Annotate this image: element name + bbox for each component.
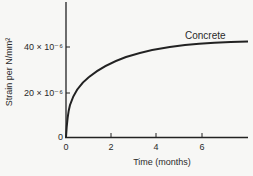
x-axis-title: Time (months) (133, 157, 191, 167)
y-tick-label-0: 0 (58, 132, 63, 142)
concrete-curve (66, 42, 248, 138)
x-tick-label-6: 6 (199, 142, 204, 152)
series-label: Concrete (185, 30, 226, 41)
x-tick-label-4: 4 (153, 142, 158, 152)
x-tick-label-0: 0 (63, 142, 68, 152)
y-tick-label-20: 20 × 10⁻⁶ (24, 88, 63, 98)
x-tick-label-2: 2 (108, 142, 113, 152)
creep-chart: Concrete 40 × 10⁻⁶ 20 × 10⁻⁶ 0 0 2 4 6 T… (0, 0, 253, 176)
y-tick-label-40: 40 × 10⁻⁶ (24, 42, 63, 52)
y-axis-title: Strain per N/mm² (4, 38, 14, 107)
